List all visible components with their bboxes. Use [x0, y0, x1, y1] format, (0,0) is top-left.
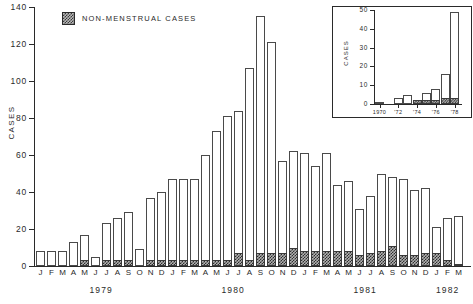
bar-total-segment — [135, 249, 144, 266]
main-y-tick — [29, 266, 35, 267]
bar — [36, 7, 45, 266]
bar-total-segment — [69, 242, 78, 266]
bar-non-menstrual-segment — [421, 253, 430, 266]
main-y-tick-label: 100 — [0, 76, 27, 86]
inset-bar — [422, 10, 431, 104]
bar-total-segment — [256, 16, 265, 266]
inset-y-tick-label: 50 — [350, 6, 368, 13]
figure-root: CASES 020406080100120140 NON-MENSTRUAL C… — [0, 0, 473, 304]
bar-non-menstrual-segment — [311, 251, 320, 266]
inset-x-tick-label: '72 — [388, 109, 408, 115]
bar-non-menstrual-segment — [124, 260, 133, 266]
inset-bar-chart: CASES 01020304050 1970'72'74'76'78 — [332, 6, 472, 118]
bar — [256, 7, 265, 266]
bar-non-menstrual-segment — [388, 246, 397, 266]
bar-non-menstrual-segment — [157, 260, 166, 266]
bar — [190, 7, 199, 266]
bar-non-menstrual-segment — [146, 260, 155, 266]
inset-bar — [403, 10, 412, 104]
bar — [234, 7, 243, 266]
inset-border-left — [332, 6, 333, 118]
bar-non-menstrual-segment — [223, 260, 232, 266]
bar-non-menstrual-segment — [113, 260, 122, 266]
bar-total-segment — [443, 218, 452, 266]
year-group-label: 1979 — [81, 285, 121, 295]
bar-non-menstrual-segment — [234, 253, 243, 266]
inset-x-tick — [398, 105, 399, 108]
bar — [223, 7, 232, 266]
bar — [300, 7, 309, 266]
inset-bar — [441, 10, 450, 104]
bar-non-menstrual-segment — [355, 255, 364, 266]
bar — [58, 7, 67, 266]
inset-x-tick-label: 1970 — [370, 109, 390, 115]
bar — [267, 7, 276, 266]
bar-total-segment — [113, 218, 122, 266]
bar-total-segment — [179, 179, 188, 266]
inset-bar — [450, 10, 459, 104]
inset-bar-non-menstrual-segment — [450, 98, 459, 104]
x-tick-label: M — [453, 268, 465, 277]
bar-non-menstrual-segment — [168, 260, 177, 266]
bar — [278, 7, 287, 266]
bar — [47, 7, 56, 266]
inset-y-tick-label: 10 — [350, 81, 368, 88]
bar — [146, 7, 155, 266]
bar — [322, 7, 331, 266]
inset-x-tick-label: '78 — [445, 109, 465, 115]
bar-non-menstrual-segment — [443, 260, 452, 266]
inset-y-tick-label: 20 — [350, 62, 368, 69]
bar-total-segment — [245, 68, 254, 266]
inset-x-tick-labels: 1970'72'74'76'78 — [374, 105, 464, 117]
bar-total-segment — [212, 131, 221, 266]
bar-non-menstrual-segment — [399, 255, 408, 266]
inset-bar — [375, 10, 384, 104]
inset-x-tick-label: '76 — [426, 109, 446, 115]
bar-total-segment — [454, 216, 463, 266]
inset-y-tick-label: 30 — [350, 44, 368, 51]
bar — [80, 7, 89, 266]
inset-bar-non-menstrual-segment — [413, 100, 422, 104]
bar-total-segment — [36, 251, 45, 266]
bar-non-menstrual-segment — [102, 260, 111, 266]
year-group-label: 1981 — [345, 285, 385, 295]
inset-plot-area — [374, 10, 462, 104]
bar-non-menstrual-segment — [377, 251, 386, 266]
inset-bar-non-menstrual-segment — [422, 100, 431, 104]
inset-bar-total-segment — [375, 102, 384, 104]
bar-non-menstrual-segment — [201, 260, 210, 266]
main-y-tick-label: 60 — [0, 150, 27, 160]
inset-y-tick-label: 40 — [350, 25, 368, 32]
main-y-tick-label: 20 — [0, 224, 27, 234]
inset-bar-non-menstrual-segment — [441, 98, 450, 104]
bar — [289, 7, 298, 266]
bar — [245, 7, 254, 266]
inset-bar — [431, 10, 440, 104]
main-y-tick-label: 80 — [0, 113, 27, 123]
bar-total-segment — [322, 153, 331, 266]
bar — [113, 7, 122, 266]
inset-border-bottom — [332, 117, 472, 118]
bar-non-menstrual-segment — [333, 251, 342, 266]
bar-non-menstrual-segment — [256, 253, 265, 266]
bar — [135, 7, 144, 266]
inset-x-tick-label: '74 — [407, 109, 427, 115]
inset-bar — [413, 10, 422, 104]
bar-total-segment — [223, 116, 232, 266]
bar-non-menstrual-segment — [432, 253, 441, 266]
inset-y-tick-label: 0 — [350, 100, 368, 107]
bar-total-segment — [267, 42, 276, 266]
year-group-label: 1980 — [213, 285, 253, 295]
bar — [157, 7, 166, 266]
bar-non-menstrual-segment — [322, 251, 331, 266]
bar — [179, 7, 188, 266]
bar-non-menstrual-segment — [366, 253, 375, 266]
bar — [102, 7, 111, 266]
bar — [69, 7, 78, 266]
inset-bar-total-segment — [403, 95, 412, 104]
inset-bar-total-segment — [394, 98, 403, 104]
bar-non-menstrual-segment — [344, 251, 353, 266]
bar-total-segment — [157, 192, 166, 266]
bar — [124, 7, 133, 266]
main-y-tick-label: 120 — [0, 39, 27, 49]
